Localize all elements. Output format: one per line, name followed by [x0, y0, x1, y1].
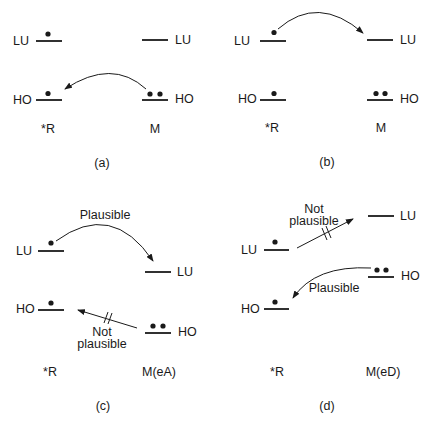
panel-c-r-species: *R: [43, 366, 57, 379]
electron-dot: [271, 91, 276, 96]
electron-dot: [45, 91, 50, 96]
electron-dot: [45, 31, 50, 36]
panel-a-r-ho-label: HO: [13, 94, 32, 107]
panel-b-r-species: *R: [265, 122, 279, 135]
panel-d-caption: (d): [319, 400, 334, 413]
panel-a-m-species: M: [150, 123, 160, 136]
electron-dot: [382, 91, 387, 96]
electron-dot: [147, 91, 152, 96]
panel-a-r-lu-label: LU: [13, 35, 29, 48]
panel-c-m-ho-label: HO: [178, 326, 197, 339]
electron-dot: [374, 267, 379, 272]
panel-a-r-species: *R: [41, 123, 55, 136]
electron-dot: [272, 239, 277, 244]
electron-dot: [48, 300, 53, 305]
panel-d-m-lu-label: LU: [400, 210, 416, 223]
orbital-diagram-figure: LU HO LU HO *R M (a) LU HO LU HO *R M (b…: [0, 0, 430, 421]
panel-c-m-lu-label: LU: [177, 266, 193, 279]
panel-b-transfer-arrow: [278, 12, 363, 33]
diagram-graphics: [0, 0, 430, 421]
panel-d-plausible-label: Plausible: [309, 282, 360, 295]
panel-d-m-ho-label: HO: [401, 270, 420, 283]
panel-b-r-lu-label: LU: [234, 35, 250, 48]
panel-a-m-ho-label: HO: [175, 93, 194, 106]
panel-b-m-species: M: [376, 122, 386, 135]
panel-c-plausible-label: Plausible: [80, 209, 131, 222]
panel-c-plausible-2-label: plausible: [77, 338, 126, 351]
electron-dot: [272, 299, 277, 304]
panel-d-r-species: *R: [270, 366, 284, 379]
panel-c-plausible-arrow: [56, 225, 153, 261]
panel-d-plausible-2-label: plausible: [289, 215, 338, 228]
electron-dot: [150, 323, 155, 328]
panel-a-m-lu-label: LU: [175, 34, 191, 47]
electron-dot: [160, 323, 165, 328]
panel-b-m-lu-label: LU: [400, 34, 416, 47]
electron-dot: [373, 91, 378, 96]
panel-c-r-ho-label: HO: [16, 303, 35, 316]
panel-b-r-ho-label: HO: [238, 93, 257, 106]
panel-a-caption: (a): [94, 157, 109, 170]
electron-dot: [383, 267, 388, 272]
panel-c-r-lu-label: LU: [16, 245, 32, 258]
panel-a-transfer-arrow: [65, 74, 146, 90]
panel-d-r-lu-label: LU: [241, 244, 257, 257]
electron-dot: [48, 240, 53, 245]
panel-d-m-species: M(eD): [366, 366, 401, 379]
electron-dot: [157, 91, 162, 96]
panel-b-m-ho-label: HO: [400, 93, 419, 106]
panel-d-r-ho-label: HO: [241, 303, 260, 316]
electron-dot: [271, 30, 276, 35]
panel-c-m-species: M(eA): [142, 366, 176, 379]
panel-c-caption: (c): [96, 400, 111, 413]
panel-b-caption: (b): [319, 156, 334, 169]
